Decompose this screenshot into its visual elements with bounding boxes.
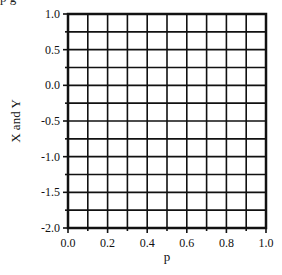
x-tick-label: 0.6 <box>179 236 194 250</box>
y-tick-label: -1.0 <box>41 150 60 164</box>
x-tick-label: 0.8 <box>219 236 234 250</box>
x-tick-label: 0.0 <box>61 236 76 250</box>
x-axis-label: p <box>164 249 171 264</box>
y-tick-label: -0.5 <box>41 114 60 128</box>
y-tick-label: -2.0 <box>41 221 60 235</box>
x-tick-label: 1.0 <box>259 236 274 250</box>
y-tick-labels: 1.00.50.0-0.5-1.0-1.5-2.0 <box>41 7 60 235</box>
grid-lines <box>68 14 266 228</box>
x-tick-labels: 0.00.20.40.60.81.0 <box>61 236 274 250</box>
y-tick-label: 0.0 <box>45 78 60 92</box>
x-tick-label: 0.2 <box>100 236 115 250</box>
y-tick-label: 0.5 <box>45 43 60 57</box>
axis-ticks <box>63 14 266 233</box>
y-axis-label: X and Y <box>8 99 23 143</box>
y-tick-label: 1.0 <box>45 7 60 21</box>
chart: 1.00.50.0-0.5-1.0-1.5-2.0 0.00.20.40.60.… <box>0 0 282 275</box>
x-tick-label: 0.4 <box>140 236 155 250</box>
y-tick-label: -1.5 <box>41 185 60 199</box>
